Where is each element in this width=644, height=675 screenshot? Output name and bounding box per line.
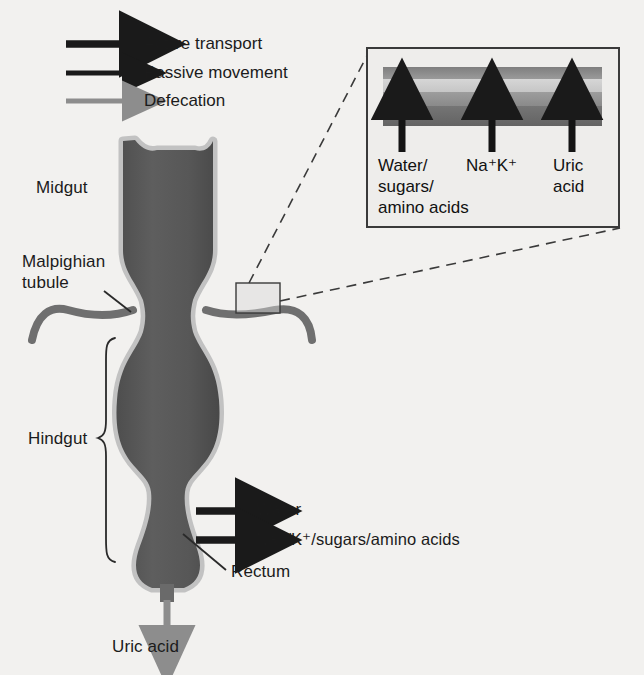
gut-assembly	[116, 140, 219, 602]
inset-label-water-line1: Water/	[378, 155, 427, 176]
inset-label-uric-line2: acid	[553, 176, 584, 197]
label-hindgut: Hindgut	[28, 429, 87, 450]
inset-label-sodium-potassium: Na⁺K⁺	[466, 155, 517, 176]
callout-leader-lower	[280, 228, 620, 301]
label-malpighian-tubule-line1: Malpighian	[22, 252, 105, 273]
zoom-region-rect	[236, 283, 280, 313]
label-rectum: Rectum	[231, 562, 290, 583]
inset-label-uric-line1: Uric	[553, 155, 583, 176]
inset-band-lumen	[383, 79, 602, 92]
legend-label-active-transport: Active transport	[144, 34, 262, 54]
rectum-transport-arrows	[196, 511, 244, 540]
legend-arrows	[66, 44, 128, 101]
malpighian-tubule-right	[206, 309, 312, 340]
malpighian-leader	[104, 291, 131, 312]
inset-label-water-line2: sugars/	[378, 176, 434, 197]
inset-band-inner-wall	[383, 92, 602, 106]
diagram-canvas	[0, 0, 644, 675]
label-malpighian-tubule-line2: tubule	[22, 273, 69, 294]
legend-label-passive-movement: Passive movement	[144, 63, 288, 83]
label-uric-acid-defecation: Uric acid	[112, 637, 179, 658]
hindgut-bracket	[98, 338, 115, 562]
label-water-transport: Water	[256, 500, 301, 521]
figure-root: Active transport Passive movement Defeca…	[0, 0, 644, 675]
malpighian-tubule-left	[32, 309, 133, 340]
inset-band-outer-top	[383, 67, 602, 79]
label-ions-sugars-transport: Na⁺/K⁺/sugars/amino acids	[256, 529, 460, 549]
inset-label-water-line3: amino acids	[378, 197, 469, 218]
legend-label-defecation: Defecation	[144, 91, 225, 111]
gut-body	[116, 140, 219, 588]
label-midgut: Midgut	[36, 178, 88, 199]
rectum-outlet	[160, 584, 174, 602]
